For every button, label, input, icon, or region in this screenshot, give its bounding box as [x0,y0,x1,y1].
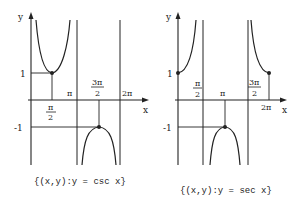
csc-xtick-3half-pi-num: 3π [92,78,102,87]
sec-xtick-3half-pi-num: 3π [249,78,259,87]
csc-xtick-half-pi-num: π [48,103,53,112]
sec-upper-left-branch [178,20,196,73]
sec-graph: y x 1 -1 π 2 π 3π 2 2π {(x,y):y = sec x} [163,12,287,196]
sec-xtick-pi: π [220,89,225,98]
sec-ytick-neg1: -1 [163,123,172,133]
sec-point-end [267,71,271,75]
csc-point-max [97,125,101,129]
csc-lower-branch [82,127,116,165]
sec-point-start [176,71,180,75]
sec-x-label: x [282,105,287,115]
sec-xtick-2pi: 2π [261,103,271,112]
sec-caption: {(x,y):y = sec x} [180,186,272,196]
csc-xtick-pi: π [67,89,72,98]
sec-x-arrow-icon [280,98,287,103]
csc-x-label: x [143,105,148,115]
csc-y-arrow-icon [29,12,34,19]
csc-point-min [50,71,54,75]
csc-ytick-1: 1 [20,69,26,79]
csc-x-arrow-icon [142,98,149,103]
csc-graph: y x 1 -1 π 2 π 3π 2 2π {(x,y):y = csc x} [14,12,149,187]
csc-ytick-neg1: -1 [14,123,23,133]
sec-upper-right-branch [251,20,269,73]
sec-lower-branch [210,127,240,165]
sec-xtick-3half-pi-den: 2 [252,89,257,98]
sec-y-arrow-icon [176,12,181,19]
csc-xtick-3half-pi-den: 2 [95,89,100,98]
diagram-canvas: y x 1 -1 π 2 π 3π 2 2π {(x,y):y = csc x} [0,0,305,210]
csc-y-label: y [17,12,24,22]
sec-xtick-half-pi-num: π [195,79,200,88]
csc-upper-branch [36,20,70,73]
sec-point-max [223,125,227,129]
csc-xtick-half-pi-den: 2 [48,113,53,122]
sec-y-label: y [165,12,172,22]
sec-xtick-half-pi-den: 2 [195,90,200,99]
csc-caption: {(x,y):y = csc x} [34,177,126,187]
csc-xtick-2pi: 2π [122,89,132,98]
sec-ytick-1: 1 [167,69,173,79]
